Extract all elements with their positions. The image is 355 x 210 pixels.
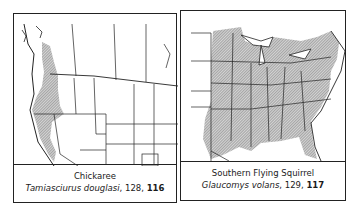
scientific-name: Tamiasciurus douglasi [26, 183, 120, 193]
map-caption: Chickaree Tamiasciurus douglasi, 128, 11… [14, 164, 176, 202]
scientific-name: Glaucomys volans [202, 180, 279, 190]
plate-number: 116 [147, 183, 165, 193]
western-na-map [14, 14, 178, 166]
scientific-reference: Glaucomys volans, 129, 117 [181, 179, 345, 191]
range-map-southern-flying-squirrel: Southern Flying Squirrel Glaucomys volan… [180, 10, 346, 201]
range-map-chickaree: Chickaree Tamiasciurus douglasi, 128, 11… [13, 13, 177, 203]
scientific-reference: Tamiasciurus douglasi, 128, 116 [14, 182, 176, 194]
text-page: 129 [285, 180, 301, 190]
eastern-na-map [181, 11, 347, 163]
range-shading [32, 42, 64, 162]
text-page: 128 [125, 183, 141, 193]
range-shading [203, 27, 339, 159]
common-name: Chickaree [14, 170, 176, 182]
plate-number: 117 [306, 180, 324, 190]
common-name: Southern Flying Squirrel [181, 167, 345, 179]
map-caption: Southern Flying Squirrel Glaucomys volan… [181, 161, 345, 200]
